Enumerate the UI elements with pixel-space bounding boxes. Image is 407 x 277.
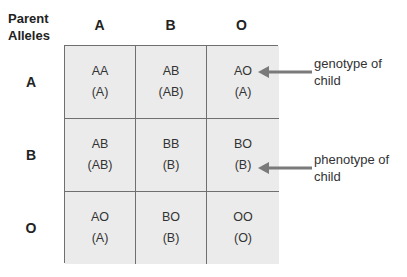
phenotype: (O) (234, 231, 252, 246)
genotype: AA (92, 64, 109, 79)
cell-b-b: BB (B) (136, 119, 207, 192)
phenotype: (A) (92, 231, 109, 246)
genotype: AB (163, 64, 180, 79)
cell-o-a: AO (A) (65, 192, 136, 264)
phenotype: (B) (235, 158, 252, 173)
row-header-b: B (20, 147, 42, 163)
genotype: BO (162, 210, 180, 225)
arrow-left-icon (258, 66, 312, 78)
column-header-b: B (135, 17, 206, 33)
phenotype: (A) (235, 85, 252, 100)
phenotype: (AB) (159, 85, 184, 100)
cell-a-a: AA (A) (65, 46, 136, 119)
column-header-o: O (206, 17, 277, 33)
annotation-phenotype: phenotype of child (314, 151, 389, 185)
annotation-phenotype-line1: phenotype of (314, 151, 389, 168)
cell-b-o: BO (B) (207, 119, 279, 192)
cell-a-b: AB (AB) (136, 46, 207, 119)
column-header-a: A (64, 17, 135, 33)
genotype: AB (92, 137, 109, 152)
phenotype: (B) (163, 231, 180, 246)
row-header-o: O (20, 220, 42, 236)
corner-label-line2: Alleles (8, 27, 50, 44)
annotation-genotype-line2: child (314, 72, 382, 89)
genotype: BB (163, 137, 180, 152)
phenotype: (AB) (88, 158, 113, 173)
annotation-genotype-line1: genotype of (314, 55, 382, 72)
corner-label-line1: Parent (8, 10, 50, 27)
cell-o-o: OO (O) (207, 192, 279, 264)
cell-o-b: BO (B) (136, 192, 207, 264)
cell-a-o: AO (A) (207, 46, 279, 119)
cell-b-a: AB (AB) (65, 119, 136, 192)
annotation-phenotype-line2: child (314, 168, 389, 185)
row-header-a: A (20, 74, 42, 90)
genotype: AO (91, 210, 109, 225)
phenotype: (A) (92, 85, 109, 100)
annotation-genotype: genotype of child (314, 55, 382, 89)
genotype: AO (234, 64, 252, 79)
genotype: OO (233, 210, 252, 225)
genotype: BO (234, 137, 252, 152)
arrow-left-icon (258, 162, 312, 174)
punnett-square: AA (A) AB (AB) AO (A) AB (AB) BB (B) BO … (64, 45, 278, 263)
phenotype: (B) (163, 158, 180, 173)
corner-label: Parent Alleles (8, 10, 50, 44)
